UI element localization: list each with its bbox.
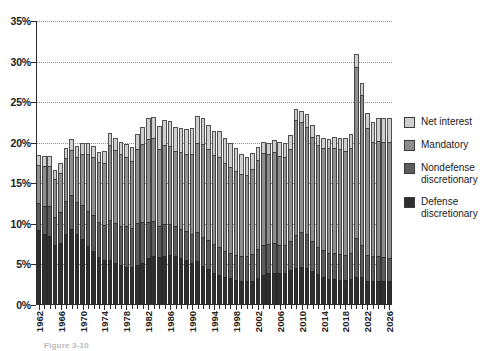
bar-column: [250, 153, 255, 306]
bar-segment: [69, 139, 74, 150]
bar-segment: [119, 142, 124, 154]
legend-item[interactable]: Mandatory: [404, 139, 496, 151]
bar-segment: [91, 251, 96, 305]
bar-segment: [250, 153, 255, 169]
legend-swatch: [404, 117, 415, 128]
bar-segment: [195, 261, 200, 305]
bar-segment: [113, 263, 118, 305]
bar-column: [234, 148, 239, 305]
bar-segment: [245, 281, 250, 305]
bar-segment: [179, 128, 184, 152]
bar-segment: [130, 228, 135, 267]
x-axis-minor-tick: [384, 305, 385, 309]
bar-segment: [157, 126, 162, 150]
x-axis-tick-label: 2022: [362, 311, 373, 332]
bar-segment: [173, 127, 178, 151]
bar-segment: [360, 83, 365, 95]
bar-column: [381, 118, 386, 305]
bar-column: [299, 111, 304, 305]
bar-segment: [168, 224, 173, 255]
x-axis-minor-tick: [252, 305, 253, 309]
bar-segment: [387, 118, 392, 142]
bar-segment: [146, 118, 151, 139]
bar-segment: [272, 273, 277, 305]
x-axis-major-tick: [324, 305, 325, 310]
bar-segment: [327, 148, 332, 253]
legend-item[interactable]: Nondefensediscretionary: [404, 162, 496, 185]
bar-segment: [162, 145, 167, 224]
x-axis-tick-label: 1978: [121, 311, 132, 332]
bar-segment: [140, 263, 145, 305]
bar-segment: [217, 247, 222, 275]
bar-column: [371, 122, 376, 305]
bar-segment: [173, 151, 178, 226]
x-axis-minor-tick: [307, 305, 308, 309]
bar-segment: [343, 151, 348, 255]
x-axis-tick-label: 1986: [165, 311, 176, 332]
bar-column: [245, 157, 250, 305]
bar-segment: [97, 222, 102, 257]
bar-segment: [365, 255, 370, 281]
bar-segment: [124, 157, 129, 226]
bar-segment: [157, 226, 162, 257]
bar-segment: [283, 157, 288, 245]
x-axis-tick-label: 1982: [143, 311, 154, 332]
legend-label: Defensediscretionary: [421, 196, 478, 219]
legend-swatch: [404, 140, 415, 151]
x-axis-tick-label: 1962: [34, 311, 45, 332]
legend-item[interactable]: Defensediscretionary: [404, 196, 496, 219]
bar-segment: [80, 239, 85, 305]
x-axis-minor-tick: [159, 305, 160, 309]
bar-series-group: [36, 21, 392, 305]
bar-segment: [135, 149, 140, 223]
x-axis-major-tick: [214, 305, 215, 310]
x-axis-tick-label: 2026: [384, 311, 395, 332]
bar-column: [97, 152, 102, 305]
bar-segment: [80, 205, 85, 239]
bar-segment: [64, 234, 69, 305]
bar-segment: [299, 122, 304, 232]
legend-item[interactable]: Net interest: [404, 116, 496, 128]
bar-segment: [365, 113, 370, 128]
bar-segment: [135, 223, 140, 265]
bar-segment: [354, 54, 359, 67]
bar-segment: [151, 138, 156, 222]
x-axis-minor-tick: [94, 305, 95, 309]
bar-segment: [86, 154, 91, 211]
bar-segment: [310, 137, 315, 241]
bar-segment: [140, 222, 145, 263]
x-axis-major-tick: [258, 305, 259, 310]
x-axis-minor-tick: [88, 305, 89, 309]
bar-segment: [234, 148, 239, 171]
bar-segment: [299, 111, 304, 122]
bar-segment: [223, 163, 228, 251]
bar-column: [376, 118, 381, 305]
bar-segment: [338, 280, 343, 305]
bar-segment: [162, 256, 167, 305]
x-axis-minor-tick: [356, 305, 357, 309]
bar-segment: [75, 146, 80, 157]
x-axis-minor-tick: [247, 305, 248, 309]
bar-segment: [91, 157, 96, 215]
bar-segment: [223, 277, 228, 305]
bar-segment: [332, 253, 337, 279]
bar-segment: [53, 179, 58, 216]
x-axis-minor-tick: [110, 305, 111, 309]
bar-column: [91, 146, 96, 305]
bar-segment: [119, 226, 124, 266]
bar-segment: [190, 128, 195, 154]
bar-segment: [135, 134, 140, 149]
bar-segment: [228, 167, 233, 253]
bar-segment: [42, 166, 47, 206]
bar-segment: [228, 253, 233, 278]
bar-segment: [108, 260, 113, 305]
bar-segment: [261, 275, 266, 305]
bar-segment: [173, 256, 178, 305]
bar-segment: [305, 127, 310, 235]
bar-segment: [201, 237, 206, 266]
bar-segment: [310, 241, 315, 271]
x-axis-major-tick: [192, 305, 193, 310]
bar-column: [113, 138, 118, 305]
bar-segment: [113, 150, 118, 223]
bar-segment: [91, 215, 96, 251]
